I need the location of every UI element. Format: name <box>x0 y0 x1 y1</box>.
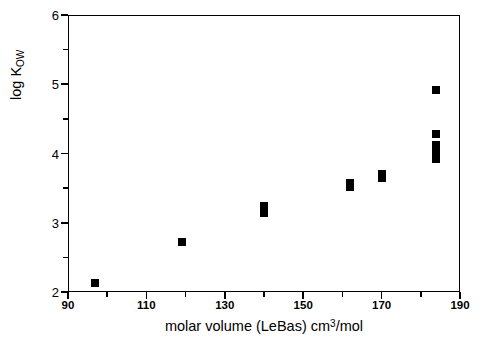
x-axis-tick-label: 150 <box>283 299 323 311</box>
x-axis-tick-minor <box>263 292 265 297</box>
y-axis-tick-label: 2 <box>35 286 59 299</box>
x-axis-tick-label: 90 <box>48 299 88 311</box>
y-axis-title: log KOW <box>8 50 26 100</box>
data-point-marker <box>260 209 268 217</box>
data-point-marker <box>91 279 99 287</box>
x-axis-tick-minor <box>420 292 422 297</box>
x-axis-title-after: /mol <box>336 318 363 334</box>
x-axis-tick-label: 110 <box>126 299 166 311</box>
x-axis-tick-major <box>224 292 226 299</box>
y-axis-tick-label: 5 <box>35 78 59 91</box>
x-axis-tick-major <box>381 292 383 299</box>
data-point-marker <box>432 155 440 163</box>
data-point-marker <box>432 147 440 155</box>
x-axis-tick-major <box>302 292 304 299</box>
data-point-marker <box>346 183 354 191</box>
y-axis-title-main: log K <box>8 67 24 100</box>
x-axis-tick-major <box>146 292 148 299</box>
x-axis-title-superscript: 3 <box>330 318 336 329</box>
x-axis-tick-minor <box>185 292 187 297</box>
x-axis-tick-label: 130 <box>205 299 245 311</box>
data-point-marker <box>432 86 440 94</box>
y-axis-title-subscript: OW <box>15 50 26 67</box>
y-axis-tick-major <box>61 222 68 224</box>
x-axis-tick-label: 170 <box>362 299 402 311</box>
x-axis-tick-minor <box>342 292 344 297</box>
y-axis-tick-major <box>61 153 68 155</box>
x-axis-tick-label: 190 <box>440 299 480 311</box>
data-points-layer <box>68 15 460 292</box>
data-point-marker <box>378 174 386 182</box>
data-point-marker <box>432 130 440 138</box>
x-axis-title-before: molar volume (LeBas) cm <box>165 318 330 334</box>
y-axis-tick-major <box>61 14 68 16</box>
y-axis-tick-label: 3 <box>35 216 59 229</box>
scatter-plot-figure: log KOW molar volume (LeBas) cm3/mol 234… <box>0 0 483 349</box>
x-axis-tick-major <box>67 292 69 299</box>
data-point-marker <box>178 238 186 246</box>
y-axis-tick-label: 4 <box>35 147 59 160</box>
y-axis-tick-major <box>61 83 68 85</box>
x-axis-title: molar volume (LeBas) cm3/mol <box>68 318 460 336</box>
y-axis-tick-label: 6 <box>35 9 59 22</box>
x-axis-tick-major <box>459 292 461 299</box>
x-axis-tick-minor <box>106 292 108 297</box>
